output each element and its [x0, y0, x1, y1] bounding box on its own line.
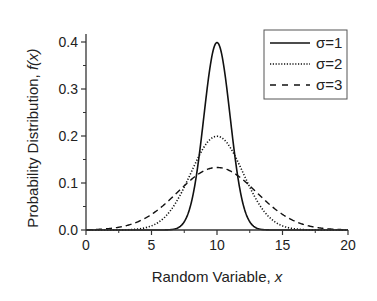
legend-label-sigma-2: σ=2	[316, 55, 342, 72]
x-axis-label: Random Variable, x	[152, 268, 283, 285]
chart: 0.00.10.20.30.4 05101520 Random Variable…	[0, 0, 377, 301]
x-tick-label: 0	[82, 237, 90, 253]
y-tick-label: 0.0	[59, 222, 79, 238]
y-tick-label: 0.2	[59, 128, 79, 144]
x-tick-label: 10	[209, 237, 225, 253]
legend-label-sigma-3: σ=3	[316, 76, 342, 93]
x-tick-label: 5	[148, 237, 156, 253]
x-tick-label: 20	[340, 237, 356, 253]
y-tick-label: 0.1	[59, 175, 79, 191]
x-tick-label: 15	[275, 237, 291, 253]
y-tick-label: 0.3	[59, 81, 79, 97]
legend: σ=1σ=2σ=3	[264, 30, 347, 99]
y-axis-label: Probability Distribution, f(x)	[24, 48, 41, 227]
legend-label-sigma-1: σ=1	[316, 34, 342, 51]
y-tick-label: 0.4	[59, 34, 79, 50]
